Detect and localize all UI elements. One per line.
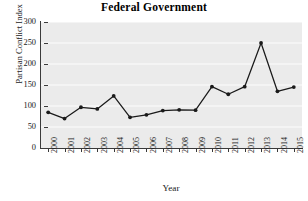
x-tick-mark: [97, 148, 98, 152]
x-tick-mark: [163, 148, 164, 152]
x-tick-label: 2012: [248, 137, 256, 153]
x-tick-mark: [196, 148, 197, 152]
x-tick-label: 2013: [264, 137, 272, 153]
x-tick-label: 2001: [68, 137, 76, 153]
x-tick-mark: [114, 148, 115, 152]
chart-container: Federal Government Partisan Conflict Ind…: [0, 0, 308, 201]
x-tick-label: 2010: [215, 137, 223, 153]
x-tick-mark: [65, 148, 66, 152]
x-tick-label: 2002: [84, 137, 92, 153]
x-tick-label: 2011: [232, 137, 240, 153]
x-tick-label: 2014: [281, 137, 289, 153]
x-tick-label: 2008: [182, 137, 190, 153]
x-tick-label: 2000: [51, 137, 59, 153]
x-tick-mark: [228, 148, 229, 152]
x-axis-ticks: 2000200120022003200420052006200720082009…: [0, 0, 308, 201]
x-axis-label: Year: [40, 183, 302, 193]
x-tick-mark: [212, 148, 213, 152]
x-tick-label: 2003: [101, 137, 109, 153]
x-tick-mark: [277, 148, 278, 152]
x-tick-label: 2005: [133, 137, 141, 153]
x-tick-mark: [261, 148, 262, 152]
x-tick-label: 2015: [297, 137, 305, 153]
x-tick-label: 2006: [150, 137, 158, 153]
x-tick-label: 2009: [199, 137, 207, 153]
x-tick-mark: [146, 148, 147, 152]
x-tick-mark: [81, 148, 82, 152]
x-tick-mark: [130, 148, 131, 152]
x-tick-label: 2007: [166, 137, 174, 153]
x-tick-label: 2004: [117, 137, 125, 153]
x-tick-mark: [294, 148, 295, 152]
x-tick-mark: [245, 148, 246, 152]
